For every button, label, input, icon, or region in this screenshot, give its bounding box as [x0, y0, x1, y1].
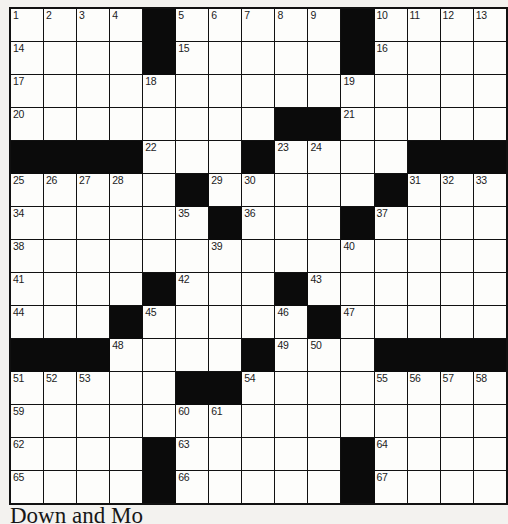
crossword-cell[interactable]: 4 [110, 8, 143, 42]
crossword-cell[interactable] [275, 404, 308, 437]
crossword-cell[interactable]: 33 [473, 173, 507, 206]
crossword-cell[interactable] [440, 305, 473, 338]
crossword-cell[interactable] [209, 338, 242, 371]
crossword-cell[interactable]: 55 [374, 371, 407, 404]
crossword-cell[interactable]: 28 [110, 173, 143, 206]
crossword-cell[interactable]: 19 [341, 74, 374, 107]
crossword-cell[interactable]: 56 [407, 371, 440, 404]
crossword-cell[interactable]: 47 [341, 305, 374, 338]
crossword-cell[interactable] [308, 470, 341, 504]
crossword-cell[interactable]: 17 [10, 74, 44, 107]
crossword-cell[interactable] [242, 107, 275, 140]
crossword-cell[interactable] [473, 239, 507, 272]
crossword-cell[interactable]: 21 [341, 107, 374, 140]
crossword-cell[interactable] [176, 239, 209, 272]
crossword-cell[interactable]: 25 [10, 173, 44, 206]
crossword-cell[interactable] [176, 305, 209, 338]
crossword-cell[interactable] [473, 206, 507, 239]
crossword-cell[interactable] [143, 206, 176, 239]
crossword-cell[interactable] [473, 74, 507, 107]
crossword-cell[interactable] [44, 206, 77, 239]
crossword-cell[interactable] [308, 74, 341, 107]
crossword-cell[interactable]: 45 [143, 305, 176, 338]
crossword-cell[interactable] [407, 305, 440, 338]
crossword-cell[interactable]: 26 [44, 173, 77, 206]
crossword-cell[interactable] [242, 74, 275, 107]
crossword-cell[interactable]: 65 [10, 470, 44, 504]
crossword-cell[interactable] [440, 272, 473, 305]
crossword-cell[interactable] [308, 173, 341, 206]
crossword-cell[interactable] [44, 437, 77, 470]
crossword-cell[interactable]: 42 [176, 272, 209, 305]
crossword-cell[interactable]: 7 [242, 8, 275, 42]
crossword-cell[interactable] [44, 239, 77, 272]
crossword-cell[interactable] [473, 272, 507, 305]
crossword-cell[interactable]: 41 [10, 272, 44, 305]
crossword-cell[interactable] [209, 140, 242, 173]
crossword-cell[interactable]: 64 [374, 437, 407, 470]
crossword-cell[interactable] [407, 206, 440, 239]
crossword-cell[interactable] [341, 272, 374, 305]
crossword-cell[interactable]: 1 [10, 8, 44, 42]
crossword-cell[interactable] [143, 107, 176, 140]
crossword-cell[interactable] [110, 74, 143, 107]
crossword-grid[interactable]: 1234567891011121314151617181920212223242… [9, 7, 508, 505]
crossword-cell[interactable]: 60 [176, 404, 209, 437]
crossword-cell[interactable] [341, 173, 374, 206]
crossword-cell[interactable]: 66 [176, 470, 209, 504]
crossword-cell[interactable] [308, 371, 341, 404]
crossword-cell[interactable]: 53 [77, 371, 110, 404]
crossword-cell[interactable]: 49 [275, 338, 308, 371]
crossword-cell[interactable] [77, 437, 110, 470]
crossword-cell[interactable] [143, 173, 176, 206]
crossword-cell[interactable] [77, 404, 110, 437]
crossword-cell[interactable] [275, 239, 308, 272]
crossword-cell[interactable] [374, 272, 407, 305]
crossword-cell[interactable] [308, 42, 341, 75]
crossword-cell[interactable]: 6 [209, 8, 242, 42]
crossword-cell[interactable]: 18 [143, 74, 176, 107]
crossword-cell[interactable] [440, 206, 473, 239]
crossword-cell[interactable] [44, 404, 77, 437]
crossword-cell[interactable] [110, 371, 143, 404]
crossword-cell[interactable] [209, 470, 242, 504]
crossword-cell[interactable] [275, 74, 308, 107]
crossword-cell[interactable] [143, 338, 176, 371]
crossword-cell[interactable]: 34 [10, 206, 44, 239]
crossword-cell[interactable] [308, 206, 341, 239]
crossword-cell[interactable] [209, 272, 242, 305]
crossword-cell[interactable] [110, 206, 143, 239]
crossword-cell[interactable] [275, 206, 308, 239]
crossword-cell[interactable] [44, 42, 77, 75]
crossword-cell[interactable] [374, 140, 407, 173]
crossword-cell[interactable] [44, 272, 77, 305]
crossword-cell[interactable]: 31 [407, 173, 440, 206]
crossword-cell[interactable] [209, 107, 242, 140]
crossword-cell[interactable]: 15 [176, 42, 209, 75]
crossword-cell[interactable] [77, 74, 110, 107]
crossword-cell[interactable] [374, 74, 407, 107]
crossword-cell[interactable] [440, 107, 473, 140]
crossword-cell[interactable] [110, 42, 143, 75]
crossword-cell[interactable]: 35 [176, 206, 209, 239]
crossword-cell[interactable]: 10 [374, 8, 407, 42]
crossword-cell[interactable] [473, 107, 507, 140]
crossword-cell[interactable]: 39 [209, 239, 242, 272]
crossword-cell[interactable]: 32 [440, 173, 473, 206]
crossword-cell[interactable] [143, 239, 176, 272]
crossword-cell[interactable] [77, 42, 110, 75]
crossword-cell[interactable] [407, 272, 440, 305]
crossword-cell[interactable] [374, 107, 407, 140]
crossword-cell[interactable] [275, 437, 308, 470]
crossword-cell[interactable]: 11 [407, 8, 440, 42]
crossword-cell[interactable]: 40 [341, 239, 374, 272]
crossword-cell[interactable]: 48 [110, 338, 143, 371]
crossword-cell[interactable] [341, 140, 374, 173]
crossword-cell[interactable]: 58 [473, 371, 507, 404]
crossword-cell[interactable] [440, 74, 473, 107]
crossword-cell[interactable]: 24 [308, 140, 341, 173]
crossword-cell[interactable] [275, 173, 308, 206]
crossword-cell[interactable] [44, 470, 77, 504]
crossword-cell[interactable] [176, 107, 209, 140]
crossword-cell[interactable] [440, 42, 473, 75]
